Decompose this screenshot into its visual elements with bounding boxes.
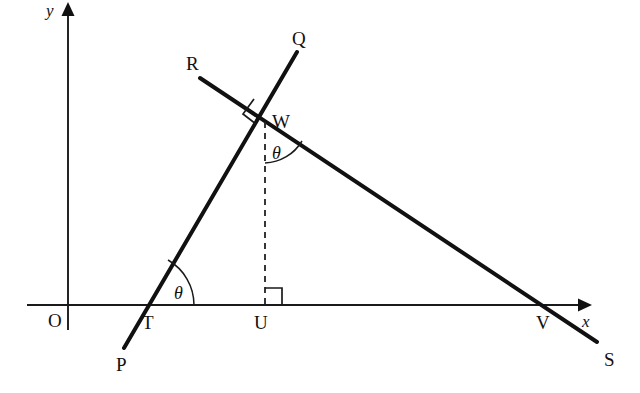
lines-group [124, 52, 597, 348]
y-axis-label: y [44, 1, 54, 20]
label-P: P [116, 354, 127, 375]
line-PQ [124, 52, 297, 348]
label-Q: Q [292, 28, 306, 49]
label-S: S [604, 349, 615, 370]
label-V: V [536, 312, 550, 333]
label-O: O [48, 310, 62, 331]
label-U: U [254, 312, 268, 333]
x-axis-label: x [581, 312, 590, 331]
label-R: R [186, 53, 199, 74]
point-labels-group: O P Q R S T U V W [48, 28, 615, 375]
line-RS [200, 78, 597, 342]
label-T: T [142, 312, 154, 333]
y-axis-arrowhead [62, 2, 75, 16]
theta-label-at-W: θ [272, 143, 281, 163]
label-W: W [272, 111, 290, 132]
geometry-diagram: O P Q R S T U V W x y θ θ [0, 0, 640, 393]
right-angle-mark-at-U [265, 288, 282, 305]
theta-label-at-T: θ [174, 283, 183, 303]
x-axis-arrowhead [578, 299, 592, 312]
diagram-canvas: O P Q R S T U V W x y θ θ [0, 0, 640, 393]
